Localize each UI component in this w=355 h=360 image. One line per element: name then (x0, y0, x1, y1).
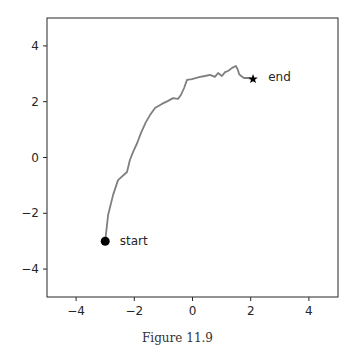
trajectory-chart: −4−2024 −4−2024 startend (0, 0, 355, 325)
y-tick-label: 0 (31, 151, 39, 165)
start-marker-icon (101, 237, 110, 246)
y-tick-label: −4 (21, 262, 39, 276)
trajectory-line (105, 66, 253, 241)
end-star-icon (248, 74, 257, 83)
y-axis: −4−2024 (21, 39, 47, 276)
annotations: startend (120, 70, 291, 249)
figure-caption: Figure 11.9 (0, 331, 355, 345)
y-tick-label: 2 (31, 95, 39, 109)
x-tick-label: −4 (67, 304, 85, 318)
y-tick-label: 4 (31, 39, 39, 53)
axes-frame (47, 18, 338, 297)
x-axis: −4−2024 (67, 297, 312, 318)
y-tick-label: −2 (21, 206, 39, 220)
x-tick-label: 4 (305, 304, 313, 318)
x-tick-label: −2 (125, 304, 143, 318)
plot-area (101, 66, 258, 246)
x-tick-label: 0 (189, 304, 197, 318)
start-label: start (120, 234, 148, 248)
end-label: end (268, 70, 291, 84)
x-tick-label: 2 (247, 304, 255, 318)
